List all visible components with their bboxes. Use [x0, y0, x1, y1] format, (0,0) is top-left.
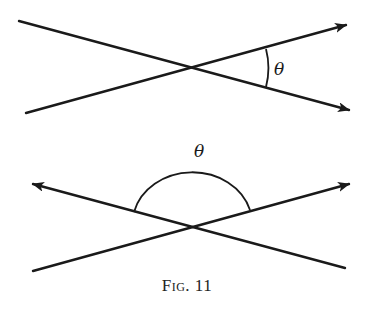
bottom-line-descending [33, 184, 345, 268]
top-theta-label: θ [274, 59, 284, 79]
bottom-diagram: θ [33, 141, 349, 271]
figure-caption: Fig. 11 [0, 276, 374, 296]
top-line-descending [19, 21, 349, 110]
bottom-angle-arc [134, 172, 250, 212]
figure-canvas: θ θ [0, 0, 374, 318]
top-diagram: θ [19, 21, 349, 113]
bottom-theta-label: θ [194, 141, 204, 161]
top-line-ascending [26, 25, 346, 113]
top-angle-arc [266, 49, 268, 87]
